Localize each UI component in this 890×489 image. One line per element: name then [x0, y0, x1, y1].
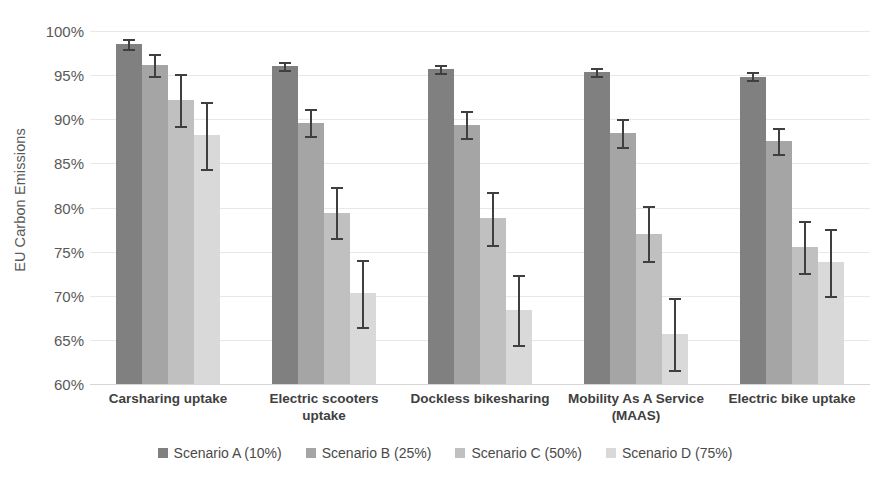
legend-swatch-icon [158, 448, 168, 458]
error-bar-cap-upper [149, 54, 161, 56]
error-bar-cap-lower [279, 70, 291, 72]
bar [142, 65, 168, 384]
error-bar-cap-upper [773, 128, 785, 130]
error-bar-cap-lower [799, 273, 811, 275]
y-axis-tick-label: 100% [8, 23, 90, 40]
category-label-line: (MAAS) [558, 407, 714, 424]
bar-chart: EU Carbon Emissions 60%65%70%75%80%85%90… [0, 0, 890, 489]
x-axis-category-label: Carsharing uptake [90, 390, 246, 407]
error-bar-line [466, 111, 468, 137]
error-bar-cap-upper [617, 119, 629, 121]
error-bar-line [804, 221, 806, 273]
bar [454, 125, 480, 384]
y-axis-tick-label: 75% [8, 243, 90, 260]
x-axis-category-label: Electric scooters uptake [246, 390, 402, 424]
x-axis-line [90, 384, 870, 385]
bar [194, 135, 220, 384]
error-bar-line [674, 298, 676, 370]
error-bar-cap-upper [279, 62, 291, 64]
y-axis-tick-label: 90% [8, 111, 90, 128]
category-label-line: Dockless bikesharing [411, 391, 550, 406]
x-axis-category-label: Dockless bikesharing [402, 390, 558, 407]
chart-legend: Scenario A (10%)Scenario B (25%)Scenario… [0, 445, 890, 461]
error-bar-cap-upper [435, 65, 447, 67]
legend-label: Scenario A (10%) [174, 445, 282, 461]
error-bar-cap-upper [513, 275, 525, 277]
error-bar-cap-lower [773, 154, 785, 156]
error-bar-cap-upper [487, 192, 499, 194]
legend-item[interactable]: Scenario D (75%) [606, 445, 733, 461]
error-bar-cap-lower [643, 261, 655, 263]
legend-swatch-icon [455, 448, 465, 458]
error-bar-line [180, 74, 182, 126]
error-bar-line [830, 229, 832, 296]
y-axis-tick-label: 65% [8, 331, 90, 348]
error-bar-line [648, 206, 650, 262]
error-bar-cap-upper [305, 109, 317, 111]
error-bar-cap-lower [331, 238, 343, 240]
error-bar-cap-lower [357, 327, 369, 329]
error-bar-cap-upper [799, 221, 811, 223]
legend-label: Scenario B (25%) [322, 445, 432, 461]
error-bar-cap-lower [747, 80, 759, 82]
error-bar-cap-upper [461, 111, 473, 113]
legend-item[interactable]: Scenario A (10%) [158, 445, 282, 461]
error-bar-cap-upper [591, 68, 603, 70]
error-bar-cap-lower [175, 126, 187, 128]
error-bar-cap-upper [175, 74, 187, 76]
legend-item[interactable]: Scenario C (50%) [455, 445, 582, 461]
error-bar-line [492, 192, 494, 245]
error-bar-line [206, 102, 208, 168]
error-bar-line [518, 275, 520, 346]
category-label-line: Mobility As A Service [568, 391, 704, 406]
gridline [90, 31, 870, 32]
bar [610, 133, 636, 384]
x-axis-category-label: Mobility As A Service(MAAS) [558, 390, 714, 424]
error-bar-cap-lower [201, 169, 213, 171]
y-axis-tick-label: 95% [8, 67, 90, 84]
error-bar-line [310, 109, 312, 136]
error-bar-cap-lower [149, 76, 161, 78]
bar [584, 72, 610, 384]
y-axis-tick-labels: 60%65%70%75%80%85%90%95%100% [0, 0, 90, 489]
bar [298, 123, 324, 384]
bar [116, 44, 142, 384]
error-bar-cap-upper [669, 298, 681, 300]
category-label-line: Carsharing uptake [109, 391, 228, 406]
legend-label: Scenario C (50%) [471, 445, 582, 461]
y-axis-tick-label: 80% [8, 199, 90, 216]
error-bar-cap-upper [643, 206, 655, 208]
error-bar-cap-upper [357, 260, 369, 262]
error-bar-cap-lower [461, 138, 473, 140]
error-bar-cap-lower [305, 136, 317, 138]
error-bar-cap-upper [123, 39, 135, 41]
error-bar-cap-lower [513, 345, 525, 347]
legend-item[interactable]: Scenario B (25%) [306, 445, 432, 461]
error-bar-line [362, 260, 364, 327]
error-bar-line [622, 119, 624, 146]
x-axis-category-label: Electric bike uptake [714, 390, 870, 407]
legend-swatch-icon [306, 448, 316, 458]
y-axis-tick-label: 85% [8, 155, 90, 172]
legend-label: Scenario D (75%) [622, 445, 733, 461]
error-bar-cap-upper [825, 229, 837, 231]
legend-swatch-icon [606, 448, 616, 458]
error-bar-cap-lower [825, 296, 837, 298]
error-bar-cap-lower [123, 49, 135, 51]
x-axis-category-labels: Carsharing uptakeElectric scooters uptak… [90, 390, 870, 438]
error-bar-cap-lower [435, 73, 447, 75]
bar [428, 69, 454, 384]
error-bar-line [154, 54, 156, 76]
error-bar-cap-upper [747, 72, 759, 74]
error-bar-line [336, 187, 338, 238]
y-axis-tick-label: 70% [8, 287, 90, 304]
error-bar-line [778, 128, 780, 154]
category-label-line: Electric bike uptake [729, 391, 856, 406]
bar [766, 141, 792, 384]
y-axis-tick-label: 60% [8, 376, 90, 393]
error-bar-cap-lower [617, 147, 629, 149]
category-label-line: Electric scooters uptake [270, 391, 379, 423]
error-bar-cap-lower [669, 370, 681, 372]
error-bar-cap-upper [201, 102, 213, 104]
bar [272, 66, 298, 384]
